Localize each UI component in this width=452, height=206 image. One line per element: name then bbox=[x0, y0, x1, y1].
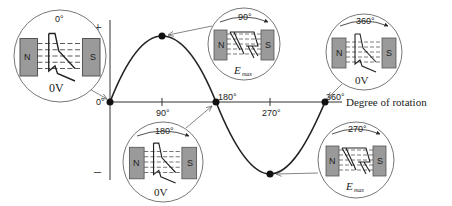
inset-180-pole-n: N bbox=[133, 158, 140, 168]
inset-180-deg: 180° 0V N S bbox=[123, 122, 203, 202]
inset-180-output: 0V bbox=[154, 186, 168, 198]
inset-90-pole-n: N bbox=[218, 40, 225, 50]
inset-0-angle: 0° bbox=[55, 14, 64, 24]
inset-90-output-sub: max bbox=[242, 71, 252, 77]
inset-270-output-sub: max bbox=[354, 187, 364, 193]
inset-270-deg: 270° E max N S bbox=[318, 122, 394, 198]
tick-180: 180° bbox=[218, 92, 237, 102]
tick-0: 0° bbox=[96, 97, 105, 107]
x-axis-label: Degree of rotation bbox=[346, 96, 427, 108]
inset-270-pole-s: S bbox=[377, 156, 383, 166]
inset-360-pole-s: S bbox=[386, 48, 392, 58]
point-180 bbox=[213, 99, 220, 106]
inset-270-pole-n: N bbox=[329, 156, 336, 166]
inset-180-pole-s: S bbox=[187, 158, 193, 168]
sine-wave-generator-diagram: + V – Degree of rotation 0° 90° 180° 270… bbox=[0, 0, 452, 206]
inset-360-angle: 360° bbox=[356, 16, 375, 26]
inset-90-output: E bbox=[233, 64, 241, 76]
inset-360-deg: 360° 0V N S bbox=[326, 14, 402, 90]
inset-360-output: 0V bbox=[355, 74, 369, 86]
inset-0-pole-n: N bbox=[24, 52, 31, 62]
point-90 bbox=[159, 33, 166, 40]
inset-360-pole-n: N bbox=[336, 48, 343, 58]
point-270 bbox=[267, 171, 274, 178]
y-minus-label: – bbox=[93, 164, 102, 179]
point-360 bbox=[322, 99, 329, 106]
inset-270-output: E bbox=[345, 180, 353, 192]
inset-0-deg: 0° 0V N S bbox=[14, 10, 106, 102]
tick-90: 90° bbox=[156, 108, 170, 118]
inset-90-angle: 90° bbox=[238, 12, 252, 22]
tick-270: 270° bbox=[262, 108, 281, 118]
inset-0-output: 0V bbox=[49, 81, 64, 95]
inset-270-angle: 270° bbox=[348, 124, 367, 134]
inset-180-angle: 180° bbox=[155, 126, 174, 136]
inset-0-pole-s: S bbox=[90, 52, 96, 62]
point-0 bbox=[107, 99, 114, 106]
inset-90-deg: 90° E max N S bbox=[208, 8, 280, 80]
inset-90-pole-s: S bbox=[265, 40, 271, 50]
